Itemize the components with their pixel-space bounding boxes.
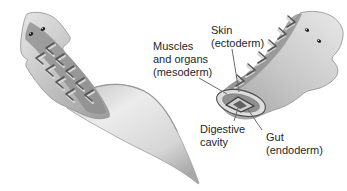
- gut-endoderm-label: Gut (endoderm): [266, 131, 323, 157]
- flatworm-illustration: [0, 0, 347, 191]
- digestive-cavity-label: Digestive cavity: [200, 123, 245, 149]
- muscles-mesoderm-label: Muscles and organs (mesoderm): [153, 40, 212, 79]
- mesoderm-leader-line: [199, 78, 227, 94]
- skin-ectoderm-label: Skin (ectoderm): [211, 24, 264, 50]
- flatworm-germ-layers-diagram: Skin (ectoderm) Muscles and organs (meso…: [0, 0, 347, 191]
- left-flatworm-illustration: [21, 12, 199, 183]
